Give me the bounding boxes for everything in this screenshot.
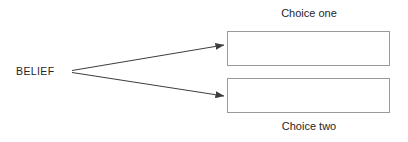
choice-two-box[interactable]	[227, 78, 390, 113]
belief-choice-diagram: BELIEF Choice one Choice two	[0, 0, 408, 142]
choice-one-box[interactable]	[227, 31, 390, 66]
belief-node-label: BELIEF	[16, 66, 55, 77]
arrow-to-choice-two	[72, 73, 224, 97]
choice-one-caption: Choice one	[227, 8, 391, 19]
choice-two-caption: Choice two	[227, 121, 391, 132]
arrow-to-choice-one	[72, 45, 224, 71]
